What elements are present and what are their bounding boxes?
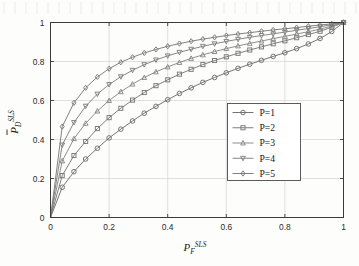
x-tick-label: 0.6: [220, 222, 232, 232]
legend-label: P=3: [260, 137, 276, 148]
legend-label: P=2: [260, 122, 276, 133]
y-tick-label: 0.4: [33, 135, 45, 145]
x-tick-label: 0.8: [279, 222, 291, 232]
legend-label: P=1: [260, 107, 276, 118]
x-axis-title-text: PFSLS: [183, 240, 207, 256]
legend-label: P=5: [260, 168, 276, 179]
y-tick-label: 1: [40, 18, 45, 28]
series-group: [51, 20, 346, 218]
y-tick-label: 0.8: [33, 57, 45, 67]
y-tick-label: 0.2: [33, 174, 45, 184]
y-axis-title-text: PDSLS: [7, 110, 23, 135]
y-tick-label: 0.6: [33, 96, 45, 106]
series-p-5: [51, 20, 346, 218]
y-axis-title: PDSLS: [7, 110, 23, 135]
series-p-2: [51, 20, 346, 217]
y-tick-label: 0: [40, 213, 45, 223]
roc-figure: 00.20.40.60.8100.20.40.60.81PFSLSPDSLSP=…: [0, 0, 359, 266]
x-tick-label: 1: [341, 222, 346, 232]
legend-label: P=4: [260, 153, 276, 164]
roc-chart: 00.20.40.60.8100.20.40.60.81PFSLSPDSLSP=…: [0, 0, 359, 266]
x-axis-title: PFSLS: [183, 240, 207, 256]
series-p-1: [51, 20, 346, 217]
series-p-3: [51, 20, 346, 218]
x-tick-label: 0: [48, 222, 53, 232]
x-tick-label: 0.2: [103, 222, 115, 232]
x-tick-label: 0.4: [162, 222, 174, 232]
series-p-4: [51, 21, 346, 218]
legend[interactable]: P=1P=2P=3P=4P=5: [228, 104, 301, 181]
